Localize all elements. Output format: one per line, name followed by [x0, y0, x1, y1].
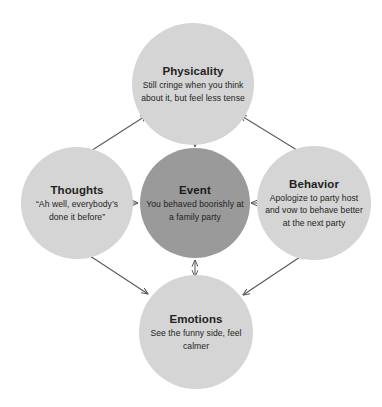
node-emotions-description: See the funny side, feel calmer: [139, 327, 253, 352]
node-behavior-title: Behavior: [289, 177, 339, 191]
arrow-emotions-behavior: [243, 253, 306, 295]
arrow-thoughts-emotions: [84, 252, 148, 294]
node-behavior-description: Apologize to party host and vow to behav…: [257, 192, 371, 229]
node-thoughts-description: “Ah well, everybody’s done it before”: [21, 198, 133, 223]
node-behavior[interactable]: Behavior Apologize to party host and vow…: [257, 146, 371, 260]
node-event[interactable]: Event You behaved boorishly at a family …: [140, 148, 250, 258]
node-physicality-title: Physicality: [162, 64, 223, 78]
node-physicality[interactable]: Physicality Still cringe when you think …: [132, 23, 254, 145]
cbt-cycle-diagram: Physicality Still cringe when you think …: [0, 0, 382, 407]
node-emotions[interactable]: Emotions See the funny side, feel calmer: [139, 275, 253, 389]
node-emotions-title: Emotions: [169, 312, 222, 326]
node-event-title: Event: [179, 183, 211, 197]
node-event-description: You behaved boorishly at a family party: [140, 198, 250, 223]
node-thoughts-title: Thoughts: [50, 183, 103, 197]
node-thoughts[interactable]: Thoughts “Ah well, everybody’s done it b…: [21, 147, 133, 259]
node-physicality-description: Still cringe when you think about it, bu…: [132, 79, 254, 104]
